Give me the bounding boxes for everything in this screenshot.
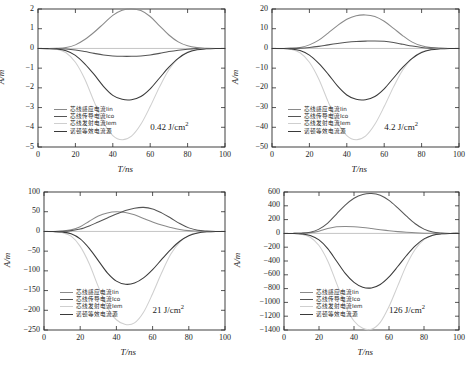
legend-swatch <box>54 123 67 124</box>
y-axis-label: A/m <box>232 253 242 268</box>
x-axis-label: T/ns <box>352 164 368 174</box>
energy-density-annotation: 21 J/cm2 <box>153 303 185 315</box>
legend-swatch <box>300 314 313 315</box>
legend-swatch <box>288 109 301 110</box>
legend-swatch <box>60 299 73 300</box>
legend-swatch <box>288 131 301 132</box>
energy-density-annotation: 126 J/cm2 <box>389 303 425 315</box>
legend-swatch <box>54 109 67 110</box>
legend-item: 芯线发射电流Iem <box>288 120 351 127</box>
series-curve-2 <box>284 193 459 233</box>
legend-swatch <box>300 292 313 293</box>
legend-item: 诺顿等效电流源 <box>300 311 363 318</box>
legend: 芯线感应电流Iin芯线传导电流Ico芯线发射电流Iem诺顿等效电流源 <box>60 289 123 318</box>
legend-label: 芯线发射电流Iem <box>316 303 363 310</box>
energy-value: 126 J/cm <box>389 305 422 315</box>
energy-exponent: 2 <box>181 303 184 310</box>
energy-exponent: 2 <box>185 120 188 127</box>
legend-label: 芯线发射电流Iem <box>70 120 117 127</box>
legend-label: 芯线发射电流Iem <box>76 303 123 310</box>
series-curve-1 <box>38 9 225 48</box>
subplot-top-left: 020406080100210−1−2−3−4−5A/mT/ns0.42 J/c… <box>0 0 234 183</box>
energy-density-annotation: 0.42 J/cm2 <box>150 120 188 132</box>
subplot-bottom-left: 020406080100100500−50−100−150−200−250A/m… <box>0 183 234 366</box>
plot-canvas <box>0 0 234 183</box>
energy-density-annotation: 4.2 J/cm2 <box>384 120 418 132</box>
y-axis-label: A/m <box>0 70 6 85</box>
legend-label: 芯线发射电流Iem <box>304 120 351 127</box>
legend: 芯线感应电流Iin芯线传导电流Ico芯线发射电流Iem诺顿等效电流源 <box>300 289 363 318</box>
energy-exponent: 2 <box>422 303 425 310</box>
legend-swatch <box>288 123 301 124</box>
legend-label: 诺顿等效电流源 <box>304 128 346 135</box>
legend-item: 芯线发射电流Iem <box>300 303 363 310</box>
series-curve-4 <box>284 233 459 288</box>
plot-canvas <box>234 183 468 366</box>
legend-swatch <box>300 299 313 300</box>
legend: 芯线感应电流Iin芯线传导电流Ico芯线发射电流Iem诺顿等效电流源 <box>54 106 117 135</box>
series-curve-4 <box>272 48 459 100</box>
energy-exponent: 2 <box>415 120 418 127</box>
x-axis-label: T/ns <box>118 164 134 174</box>
energy-value: 21 J/cm <box>153 305 181 315</box>
legend-item: 诺顿等效电流源 <box>288 128 351 135</box>
legend-swatch <box>54 116 67 117</box>
legend: 芯线感应电流Iin芯线传导电流Ico芯线发射电流Iem诺顿等效电流源 <box>288 106 351 135</box>
legend-swatch <box>60 306 73 307</box>
legend-item: 诺顿等效电流源 <box>60 311 123 318</box>
legend-label: 诺顿等效电流源 <box>316 311 358 318</box>
legend-swatch <box>60 314 73 315</box>
series-curve-2 <box>44 207 225 231</box>
figure-root: 020406080100210−1−2−3−4−5A/mT/ns0.42 J/c… <box>0 0 468 366</box>
legend-swatch <box>54 131 67 132</box>
legend-swatch <box>300 306 313 307</box>
y-axis-label: A/m <box>230 70 240 85</box>
legend-label: 诺顿等效电流源 <box>70 128 112 135</box>
series-curve-4 <box>44 231 225 284</box>
legend-swatch <box>60 292 73 293</box>
energy-value: 4.2 J/cm <box>384 122 415 132</box>
series-curve-1 <box>272 15 459 49</box>
plot-canvas <box>0 183 234 366</box>
y-axis-label: A/m <box>2 253 12 268</box>
subplot-bottom-right: 0204060801006004002000−200−400−600−800−1… <box>234 183 468 366</box>
subplot-top-right: 02040608010020100−10−20−30−40−50A/mT/ns4… <box>234 0 468 183</box>
legend-item: 芯线发射电流Iem <box>54 120 117 127</box>
energy-value: 0.42 J/cm <box>150 122 185 132</box>
legend-swatch <box>288 116 301 117</box>
series-curve-1 <box>44 212 225 232</box>
legend-item: 芯线发射电流Iem <box>60 303 123 310</box>
legend-label: 诺顿等效电流源 <box>76 311 118 318</box>
legend-item: 诺顿等效电流源 <box>54 128 117 135</box>
x-axis-label: T/ns <box>358 347 374 357</box>
plot-canvas <box>234 0 468 183</box>
x-axis-label: T/ns <box>121 347 137 357</box>
